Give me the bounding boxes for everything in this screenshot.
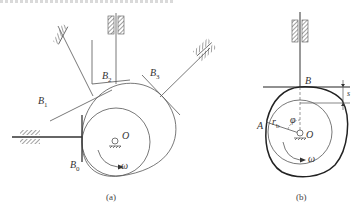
cam-mechanism-diagram xyxy=(0,0,361,211)
caption-b: (b) xyxy=(296,193,307,202)
label-o-a: O xyxy=(122,131,129,141)
label-omega-a: ω xyxy=(121,161,128,171)
label-a: A xyxy=(257,121,263,131)
label-rb: rb xyxy=(272,117,279,130)
label-omega-b: ω xyxy=(308,154,315,164)
label-b0: B0 xyxy=(70,160,80,173)
rotation-arrow-b xyxy=(283,142,300,160)
label-b1: B1 xyxy=(38,96,48,109)
label-b: B xyxy=(305,76,311,86)
guide-b3 xyxy=(193,38,217,61)
guide-hatch-b0-top xyxy=(20,130,40,135)
label-b2: B2 xyxy=(102,71,112,84)
guide-hatch-b-right xyxy=(302,20,308,42)
guide-hatch-b0-bottom xyxy=(20,139,40,144)
guide-hatch-b2-left xyxy=(108,16,114,34)
rotation-arrow-a xyxy=(98,150,118,167)
guide-hatch-b2-right xyxy=(118,16,124,34)
figure-b xyxy=(263,12,350,177)
caption-a: (a) xyxy=(106,193,116,202)
guide-hatch-b-left xyxy=(292,20,298,42)
label-o-b: O xyxy=(306,130,313,140)
label-s: s xyxy=(347,90,350,98)
label-phi: φ xyxy=(290,115,296,125)
label-b3: B3 xyxy=(150,68,160,81)
